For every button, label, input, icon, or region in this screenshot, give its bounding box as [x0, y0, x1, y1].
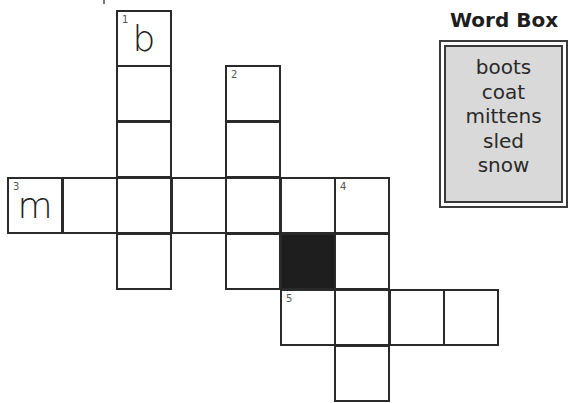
word-box-word: boots — [446, 55, 561, 80]
blocked-cell — [280, 233, 336, 290]
cell-letter: m — [9, 185, 61, 226]
clue-number: 4 — [340, 181, 346, 192]
crossword-cell[interactable] — [389, 289, 445, 346]
crossword-cell[interactable]: 4 — [334, 177, 390, 234]
crossword-cell[interactable]: 3m — [7, 177, 63, 234]
word-box-word: snow — [446, 153, 561, 178]
crossword-cell[interactable]: 1b — [116, 10, 172, 67]
word-box-title: Word Box — [440, 8, 568, 32]
crossword-cell[interactable] — [116, 121, 172, 178]
crossword-cell[interactable] — [280, 177, 336, 234]
crossword-cell[interactable] — [116, 233, 172, 290]
crossword-cell[interactable] — [225, 177, 281, 234]
crossword-cell[interactable]: 2 — [225, 65, 281, 122]
crossword-cell[interactable] — [171, 177, 227, 234]
word-box-word: coat — [446, 80, 561, 105]
crossword-cell[interactable] — [334, 289, 390, 346]
clue-number: 5 — [286, 293, 292, 304]
crossword-cell[interactable] — [116, 177, 172, 234]
word-box-inner: boots coat mittens sled snow — [444, 45, 563, 203]
word-box-word: mittens — [446, 104, 561, 129]
crossword-cell[interactable] — [443, 289, 499, 346]
crossword-cell[interactable] — [225, 121, 281, 178]
crossword-cell[interactable] — [334, 345, 390, 402]
crossword-cell[interactable] — [334, 233, 390, 290]
word-box: boots coat mittens sled snow — [439, 40, 568, 208]
crossword-cell[interactable] — [62, 177, 118, 234]
clue-number: 2 — [231, 69, 237, 80]
crossword-cell[interactable] — [225, 233, 281, 290]
word-box-word: sled — [446, 129, 561, 154]
crossword-cell[interactable] — [116, 65, 172, 122]
stray-mark — [103, 0, 105, 4]
crossword-cell[interactable]: 5 — [280, 289, 336, 346]
cell-letter: b — [118, 18, 170, 59]
